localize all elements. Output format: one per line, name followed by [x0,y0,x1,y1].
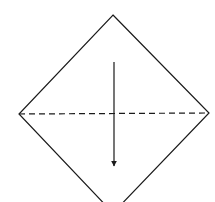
origami-diagram [0,0,215,202]
origami-diagram-canvas [0,0,215,202]
